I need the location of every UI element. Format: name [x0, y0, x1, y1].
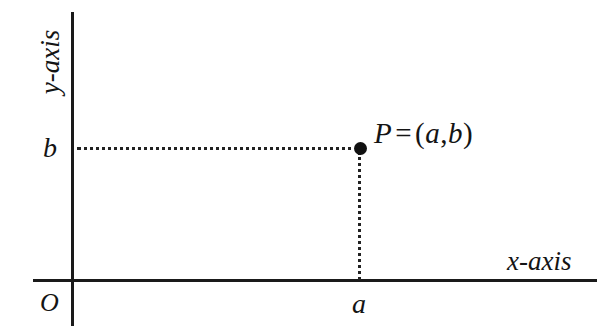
origin-label: O — [40, 290, 59, 316]
y-tick-label-b: b — [43, 134, 57, 162]
vertical-guide-line — [358, 152, 361, 280]
equals-sign: = — [392, 117, 415, 149]
x-tick-label-a: a — [352, 290, 366, 318]
point-name: P — [374, 117, 392, 149]
point-marker-p — [354, 142, 367, 155]
x-axis-line — [33, 279, 597, 282]
horizontal-guide-line — [77, 147, 359, 150]
comma: , — [440, 117, 448, 149]
point-x-coord: a — [425, 117, 440, 149]
coordinate-diagram-canvas: y-axis x-axis b a O P=(a,b) — [0, 0, 609, 332]
point-label-p: P=(a,b) — [374, 119, 473, 148]
y-axis-label: y-axis — [37, 30, 64, 94]
point-y-coord: b — [448, 117, 463, 149]
x-axis-label: x-axis — [507, 248, 571, 275]
open-paren: ( — [415, 117, 425, 149]
close-paren: ) — [463, 117, 473, 149]
